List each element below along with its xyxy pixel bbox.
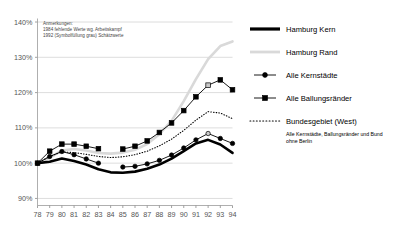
data-point: [47, 149, 52, 154]
data-point: [60, 149, 64, 153]
data-point: [84, 157, 88, 161]
x-tick-label: 85: [119, 210, 127, 219]
data-point: [194, 138, 198, 142]
x-tick-label: 78: [34, 210, 42, 219]
y-tick-label: 100%: [14, 159, 33, 168]
legend-marker-circle-icon: [263, 73, 268, 78]
y-tick-label: 90%: [18, 194, 33, 203]
data-point: [157, 130, 162, 135]
x-tick-label: 87: [143, 210, 151, 219]
legend-item-alle-ballungsr-nder[interactable]: Alle Ballungsränder: [254, 94, 352, 103]
data-point: [133, 144, 138, 149]
y-tick-label: 120%: [14, 88, 33, 97]
legend-label: Alle Kernstädte: [286, 71, 338, 80]
data-point: [218, 78, 223, 83]
x-tick-label: 89: [168, 210, 176, 219]
x-tick-label: 91: [192, 210, 200, 219]
footnote-line: Alle Kernstädte, Ballungsränder und Bund: [286, 131, 383, 137]
y-tick-label: 110%: [15, 123, 33, 132]
y-tick-label: 140%: [14, 18, 33, 27]
data-point: [84, 144, 89, 149]
legend-marker-square-icon: [263, 96, 268, 101]
legend-item-hamburg-kern[interactable]: Hamburg Kern: [250, 25, 335, 34]
legend-item-bundesgebiet-west[interactable]: Bundesgebiet (West): [250, 117, 357, 126]
data-point: [206, 131, 210, 135]
y-tick-label: 130%: [14, 53, 33, 62]
x-tick-label: 82: [82, 210, 90, 219]
data-point: [60, 142, 65, 147]
data-point: [230, 87, 235, 92]
data-point: [47, 154, 51, 158]
data-point: [181, 108, 186, 113]
x-axis-ticks: 7879808182838485868788899091929394: [34, 206, 237, 219]
x-tick-label: 86: [131, 210, 139, 219]
data-point: [96, 146, 101, 151]
data-point: [121, 165, 125, 169]
data-point: [169, 121, 174, 126]
data-point: [145, 162, 149, 166]
footnote-line: ohne Berlin: [286, 138, 312, 144]
x-tick-label: 94: [229, 210, 237, 219]
data-point: [194, 95, 199, 100]
annotation-line: 1984 fehlende Werte wg. Arbeitskampf: [43, 27, 123, 32]
chart-footnote: Alle Kernstädte, Ballungsränder und Bund…: [286, 131, 383, 144]
data-point: [157, 158, 161, 162]
legend-item-hamburg-rand[interactable]: Hamburg Rand: [250, 48, 338, 57]
x-tick-label: 79: [46, 210, 54, 219]
legend-label: Alle Ballungsränder: [286, 94, 352, 103]
x-tick-label: 84: [107, 210, 115, 219]
plot-frame: [38, 19, 233, 206]
data-point: [206, 83, 211, 88]
chart-annotation: Anmerkungen:1984 fehlende Werte wg. Arbe…: [43, 21, 124, 38]
data-point: [145, 139, 150, 144]
chart-container: 90%100%110%120%130%140%78798081828384858…: [0, 0, 415, 232]
x-tick-label: 83: [94, 210, 102, 219]
y-axis-ticks: 90%100%110%120%130%140%: [14, 18, 33, 203]
legend-label: Hamburg Kern: [286, 25, 335, 34]
line-chart: 90%100%110%120%130%140%78798081828384858…: [0, 0, 415, 232]
data-point: [218, 136, 222, 140]
x-tick-label: 80: [58, 210, 66, 219]
data-point: [133, 164, 137, 168]
x-tick-label: 90: [180, 210, 188, 219]
legend-item-alle-kernst-dte[interactable]: Alle Kernstädte: [254, 71, 338, 80]
annotation-line: Anmerkungen:: [43, 21, 73, 26]
data-point: [230, 141, 234, 145]
data-point: [121, 147, 126, 152]
data-point: [72, 152, 76, 156]
legend-label: Hamburg Rand: [286, 48, 338, 57]
legend-label: Bundesgebiet (West): [286, 117, 357, 126]
x-tick-label: 92: [204, 210, 212, 219]
data-point: [96, 161, 100, 165]
series-bundesgebiet-west: [38, 112, 233, 164]
x-tick-label: 81: [70, 210, 78, 219]
chart-legend: Hamburg KernHamburg RandAlle KernstädteA…: [250, 25, 357, 126]
annotation-line: 1992 (Symbolfüllung grau) Schätzwerte: [43, 33, 124, 38]
data-point: [72, 142, 77, 147]
x-tick-label: 88: [155, 210, 163, 219]
x-tick-label: 93: [216, 210, 224, 219]
